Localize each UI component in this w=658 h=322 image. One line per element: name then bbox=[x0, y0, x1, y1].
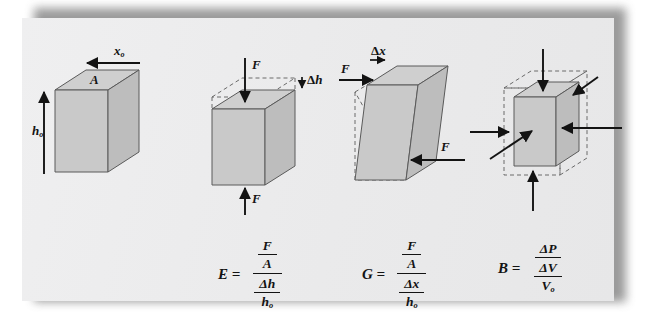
delta-x-label: Δx bbox=[371, 44, 386, 57]
youngs-modulus-fraction: F A Δh ho bbox=[249, 236, 285, 313]
delta-p-term: ΔP bbox=[540, 241, 557, 256]
force-top-label: F bbox=[252, 58, 261, 71]
force-term: F bbox=[263, 238, 272, 253]
figure-compression-block: F ΔΔhh F bbox=[190, 52, 340, 217]
formula-youngs-modulus: E = F A Δh ho bbox=[218, 236, 285, 313]
block-front-face bbox=[212, 109, 265, 185]
v-naught-term: Vo bbox=[541, 278, 554, 294]
block-side-face bbox=[556, 82, 579, 166]
bulk-modulus-fraction: ΔP ΔV Vo bbox=[529, 240, 566, 296]
undeformed-block-svg bbox=[38, 52, 188, 202]
force-bottom-label: F bbox=[252, 192, 261, 205]
bulk-block-svg bbox=[488, 55, 638, 215]
area-label: A bbox=[90, 73, 99, 86]
bulk-numerator: ΔP bbox=[535, 240, 562, 258]
original-top-edge-dashed bbox=[355, 85, 367, 92]
youngs-numerator: F A bbox=[253, 236, 282, 274]
width-label: xo bbox=[114, 44, 125, 59]
area-term: A bbox=[407, 256, 416, 271]
shear-modulus-fraction: F A Δx ho bbox=[394, 236, 429, 313]
formula-shear-modulus: G = F A Δx ho bbox=[362, 236, 429, 313]
bulk-modulus-symbol: B = bbox=[498, 260, 520, 277]
block-front-face bbox=[514, 97, 556, 166]
delta-v-term: ΔV bbox=[539, 260, 556, 275]
diagram-canvas: xo A ho bbox=[0, 0, 658, 322]
youngs-modulus-symbol: E = bbox=[218, 266, 240, 283]
delta-x-term: Δx bbox=[404, 276, 419, 291]
block-front-face bbox=[55, 90, 108, 172]
shear-denominator: Δx ho bbox=[394, 274, 429, 312]
shear-modulus-symbol: G = bbox=[362, 266, 385, 283]
figure-bulk-block bbox=[488, 55, 638, 215]
h-naught-term: ho bbox=[406, 294, 418, 310]
h-naught-term: ho bbox=[261, 294, 273, 310]
bulk-denominator: ΔV Vo bbox=[529, 258, 566, 296]
force-left-label: F bbox=[341, 62, 350, 75]
youngs-denominator: Δh ho bbox=[249, 274, 285, 312]
delta-h-term: Δh bbox=[259, 276, 275, 291]
area-term: A bbox=[263, 256, 272, 271]
figure-undeformed-block: xo A ho bbox=[38, 52, 188, 202]
shear-numerator: F A bbox=[397, 236, 426, 274]
force-right-label: F bbox=[441, 140, 450, 153]
height-label: ho bbox=[32, 124, 43, 139]
formula-bulk-modulus: B = ΔP ΔV Vo bbox=[498, 240, 567, 296]
delta-h-label: ΔΔhh bbox=[307, 73, 322, 86]
force-term: F bbox=[407, 238, 416, 253]
